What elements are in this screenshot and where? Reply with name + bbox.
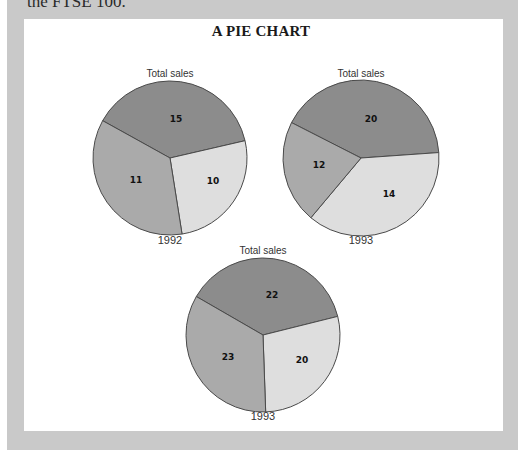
slice-value-label: 15 bbox=[170, 114, 183, 124]
pie-year-label: 1993 bbox=[251, 410, 275, 422]
slice-value-label: 23 bbox=[222, 352, 235, 362]
pie-year-label: 1993 bbox=[349, 234, 373, 246]
slice-value-label: 20 bbox=[296, 355, 309, 365]
slice-value-label: 20 bbox=[365, 114, 378, 124]
pie-caption: Total sales bbox=[146, 68, 193, 79]
pie-chart-1993-b: 222023Total sales1993 bbox=[186, 245, 340, 422]
pie-caption: Total sales bbox=[337, 68, 384, 79]
pie-charts-canvas: 151011Total sales1992 201412Total sales1… bbox=[0, 0, 522, 450]
slice-value-label: 11 bbox=[130, 175, 143, 185]
slice-value-label: 10 bbox=[207, 176, 220, 186]
slice-value-label: 12 bbox=[313, 160, 326, 170]
pie-year-label: 1992 bbox=[158, 234, 182, 246]
slice-value-label: 22 bbox=[266, 290, 279, 300]
slice-value-label: 14 bbox=[383, 189, 396, 199]
pie-caption: Total sales bbox=[239, 245, 286, 256]
pie-chart-1992: 151011Total sales1992 bbox=[93, 68, 247, 246]
pie-chart-1993-a: 201412Total sales1993 bbox=[283, 68, 439, 246]
